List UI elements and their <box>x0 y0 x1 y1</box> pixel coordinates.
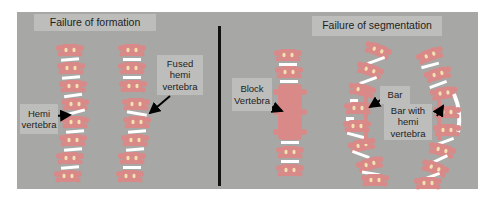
title-failure-of-segmentation: Failure of segmentation <box>312 16 442 36</box>
title-failure-of-formation: Failure of formation <box>34 14 156 31</box>
spine-block-vertebra <box>273 49 307 177</box>
spine-fused-hemivertebra <box>116 44 151 183</box>
section-divider <box>218 26 221 186</box>
spine-hemivertebra <box>54 44 89 183</box>
label-hemi-vertebra: Hemi vertebra <box>20 104 58 134</box>
label-bar-with-hemi-vertebra: Bar with hemi vertebra <box>384 104 432 140</box>
label-bar: Bar <box>380 86 410 104</box>
arrow-fused <box>150 96 170 113</box>
label-fused-hemi-vertebra: Fused hemi vertebra <box>157 55 203 95</box>
label-block-vertebra: Block Vertebra <box>232 78 272 111</box>
